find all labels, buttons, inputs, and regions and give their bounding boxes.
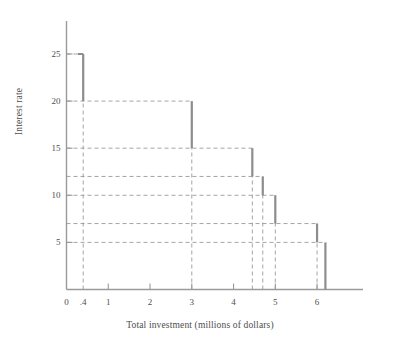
x-tick-label: 2: [148, 297, 153, 307]
step-series-group: [78, 54, 326, 290]
y-tick-label: 20: [45, 96, 61, 106]
x-tick-label: 3: [190, 297, 195, 307]
x-tick-label: .4: [80, 297, 87, 307]
y-axis-title: Interest rate: [14, 88, 24, 135]
axes-group: [67, 21, 364, 290]
x-axis-title: Total investment (millions of dollars): [0, 320, 400, 330]
x-tick-label: 4: [231, 297, 236, 307]
y-tick-label: 15: [45, 143, 61, 153]
x-tick-label: 6: [315, 297, 320, 307]
y-tick-label: 5: [45, 237, 61, 247]
investment-demand-chart: Total investment (millions of dollars) I…: [0, 0, 400, 345]
x-tick-label: 1: [106, 297, 111, 307]
y-tick-label: 25: [45, 49, 61, 59]
x-tick-label: 0: [64, 297, 69, 307]
x-tick-label: 5: [273, 297, 278, 307]
y-tick-label: 10: [45, 190, 61, 200]
gridlines-group: [67, 54, 326, 290]
